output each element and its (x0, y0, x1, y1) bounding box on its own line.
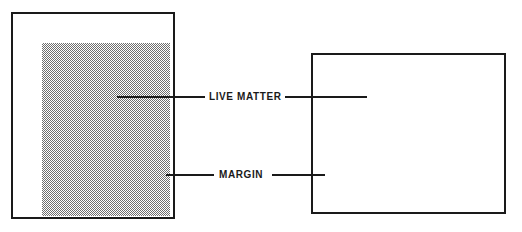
landscape-page-outline (311, 53, 506, 214)
leader-line-margin-left (166, 174, 214, 176)
portrait-page-outline (11, 12, 175, 219)
leader-line-margin-right (272, 174, 325, 176)
page-layout-diagram: LIVE MATTER MARGIN (0, 0, 522, 232)
portrait-live-matter-area (42, 43, 170, 216)
label-margin: MARGIN (216, 169, 266, 180)
leader-line-live-matter-left (117, 96, 205, 98)
label-live-matter: LIVE MATTER (206, 91, 285, 102)
leader-line-live-matter-right (279, 96, 367, 98)
